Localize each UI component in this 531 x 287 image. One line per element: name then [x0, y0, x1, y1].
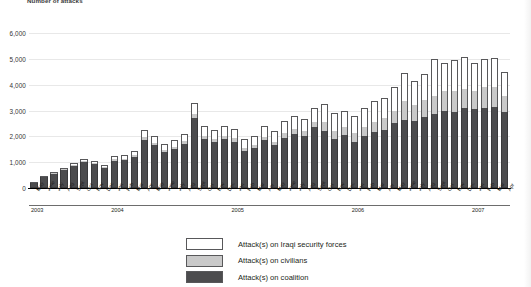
bar-segment-iraqi-security-forces [461, 57, 468, 89]
bar-group[interactable] [199, 33, 209, 188]
bar-group[interactable] [400, 33, 410, 188]
bar-group[interactable] [39, 33, 49, 188]
bar-group[interactable] [59, 33, 69, 188]
bar-group[interactable] [269, 33, 279, 188]
bar-group[interactable] [29, 33, 39, 188]
bar-group[interactable] [309, 33, 319, 188]
bar-segment-coalition [481, 108, 488, 188]
legend-item-iraqi-security-forces[interactable]: Attack(s) on Iraqi security forces [186, 236, 346, 253]
bar-group[interactable] [279, 33, 289, 188]
legend-item-coalition[interactable]: Attack(s) on coalition [186, 269, 346, 286]
bar-segment-iraqi-security-forces [421, 74, 428, 100]
year-band-rule [29, 205, 109, 206]
bar-segment-iraqi-security-forces [311, 108, 318, 122]
y-axis-tick-label: 4,000 [0, 81, 26, 88]
bar-segment-iraqi-security-forces [241, 139, 248, 148]
bar-group[interactable] [49, 33, 59, 188]
bar-group[interactable] [289, 33, 299, 188]
bar-group[interactable] [470, 33, 480, 188]
x-axis-year-label: 2003 [31, 207, 43, 213]
bar-segment-civilians [441, 91, 448, 110]
bar-segment-coalition [381, 130, 388, 188]
bar-group[interactable] [79, 33, 89, 188]
bar-segment-iraqi-security-forces [441, 63, 448, 91]
bar-group[interactable] [410, 33, 420, 188]
bar-group[interactable] [239, 33, 249, 188]
bar-group[interactable] [450, 33, 460, 188]
bar-group[interactable] [99, 33, 109, 188]
bar-group[interactable] [360, 33, 370, 188]
bar-group[interactable] [109, 33, 119, 188]
y-axis-tick-label: 5,000 [0, 55, 26, 62]
bar-segment-iraqi-security-forces [351, 116, 358, 133]
bar-group[interactable] [490, 33, 500, 188]
year-band-rule [109, 205, 229, 206]
bar-group[interactable] [69, 33, 79, 188]
legend-swatch-icon-iraqi-security-forces [186, 238, 223, 250]
bar-group[interactable] [420, 33, 430, 188]
bar-group[interactable] [350, 33, 360, 188]
bar-segment-coalition [491, 107, 498, 188]
bar-segment-iraqi-security-forces [251, 136, 258, 145]
y-axis-tick-label: 2,000 [0, 133, 26, 140]
bar-group[interactable] [500, 33, 510, 188]
bar-group[interactable] [480, 33, 490, 188]
bar-group[interactable] [460, 33, 470, 188]
bar-segment-iraqi-security-forces [141, 130, 148, 137]
bar-group[interactable] [149, 33, 159, 188]
bar-segment-iraqi-security-forces [281, 121, 288, 133]
bar-segment-civilians [481, 87, 488, 108]
bar-segment-civilians [341, 127, 348, 135]
bar-segment-coalition [411, 121, 418, 188]
bar-segment-coalition [501, 112, 508, 188]
bar-group[interactable] [159, 33, 169, 188]
bar-segment-civilians [421, 100, 428, 117]
bar-group[interactable] [209, 33, 219, 188]
y-axis-tick-label: 6,000 [0, 30, 26, 37]
bar-segment-civilians [451, 91, 458, 112]
bar-group[interactable] [219, 33, 229, 188]
bar-group[interactable] [299, 33, 309, 188]
x-axis-year-band: 2004 [109, 205, 229, 214]
bar-group[interactable] [430, 33, 440, 188]
bar-group[interactable] [119, 33, 129, 188]
bar-segment-iraqi-security-forces [481, 59, 488, 87]
bar-group[interactable] [259, 33, 269, 188]
bar-group[interactable] [129, 33, 139, 188]
bar-segment-civilians [411, 105, 418, 121]
bar-segment-civilians [461, 89, 468, 108]
bar-group[interactable] [370, 33, 380, 188]
bar-segment-coalition [451, 112, 458, 188]
bar-group[interactable] [139, 33, 149, 188]
bar-segment-civilians [371, 122, 378, 133]
bar-group[interactable] [339, 33, 349, 188]
bar-group[interactable] [229, 33, 239, 188]
bar-segment-civilians [431, 96, 438, 114]
bar-group[interactable] [169, 33, 179, 188]
bar-segment-civilians [381, 118, 388, 130]
bar-segment-coalition [421, 117, 428, 188]
bar-group[interactable] [189, 33, 199, 188]
bar-group[interactable] [440, 33, 450, 188]
bar-segment-coalition [141, 140, 148, 188]
bar-segment-coalition [271, 145, 278, 188]
bar-segment-iraqi-security-forces [301, 119, 308, 131]
bar-group[interactable] [319, 33, 329, 188]
bar-group[interactable] [380, 33, 390, 188]
bar-segment-civilians [351, 133, 358, 142]
bar-segment-iraqi-security-forces [391, 87, 398, 110]
bar-segment-coalition [391, 123, 398, 188]
bar-group[interactable] [249, 33, 259, 188]
bar-group[interactable] [390, 33, 400, 188]
bar-group[interactable] [179, 33, 189, 188]
legend-label-civilians: Attack(s) on civilians [238, 256, 307, 265]
legend-item-civilians[interactable]: Attack(s) on civilians [186, 253, 346, 270]
bar-segment-civilians [331, 131, 338, 139]
bar-group[interactable] [329, 33, 339, 188]
bar-segment-coalition [471, 109, 478, 188]
bar-group[interactable] [89, 33, 99, 188]
x-axis-year-band: 2005 [229, 205, 349, 214]
legend-label-coalition: Attack(s) on coalition [238, 273, 308, 282]
x-axis-year-band: 2007 [470, 205, 510, 214]
chart-title: Number of attacks [27, 0, 83, 4]
